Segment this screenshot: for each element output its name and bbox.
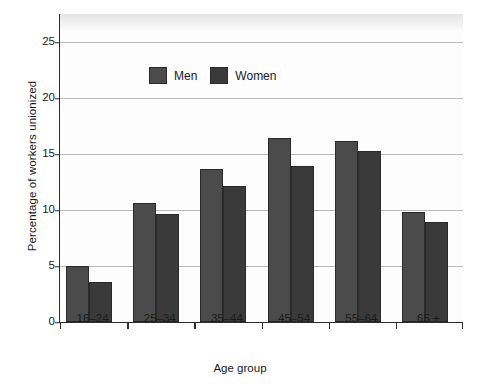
y-axis-tick-label: 25 (9, 36, 55, 48)
bar-women-65 (425, 222, 448, 322)
plot-area: 0510152025 Men Women (59, 14, 463, 323)
bar-group (329, 14, 396, 322)
legend-item-women: Women (210, 67, 276, 84)
bar-men-35-44 (200, 169, 223, 322)
x-axis-tick-label: 65 + (388, 312, 468, 324)
y-axis-title: Percentage of workers unionized (26, 36, 38, 296)
legend-swatch-women-icon (210, 67, 228, 84)
bar-group (194, 14, 261, 322)
bar-group (60, 14, 127, 322)
bar-men-45-54 (268, 138, 291, 322)
y-axis-tick-label: 0 (9, 316, 55, 328)
bar-group (127, 14, 194, 322)
y-axis-tick-label: 10 (9, 204, 55, 216)
bar-chart-figure: Percentage of workers unionized 05101520… (0, 0, 480, 391)
bar-group (262, 14, 329, 322)
y-axis-tick-label: 15 (9, 148, 55, 160)
chart-legend: Men Women (149, 67, 276, 84)
bar-women-55-64 (358, 151, 381, 322)
bar-women-45-54 (291, 166, 314, 322)
bar-women-25-34 (156, 214, 179, 322)
bar-women-35-44 (223, 186, 246, 322)
legend-swatch-men-icon (149, 67, 167, 84)
legend-label-men: Men (174, 69, 197, 83)
bar-group (396, 14, 463, 322)
x-axis-title: Age group (0, 362, 480, 374)
bar-men-25-34 (133, 203, 156, 322)
legend-label-women: Women (235, 69, 276, 83)
bar-men-65 (402, 212, 425, 322)
legend-item-men: Men (149, 67, 197, 84)
y-axis-tick-label: 5 (9, 260, 55, 272)
bar-men-55-64 (335, 141, 358, 322)
y-axis-tick-label: 20 (9, 92, 55, 104)
